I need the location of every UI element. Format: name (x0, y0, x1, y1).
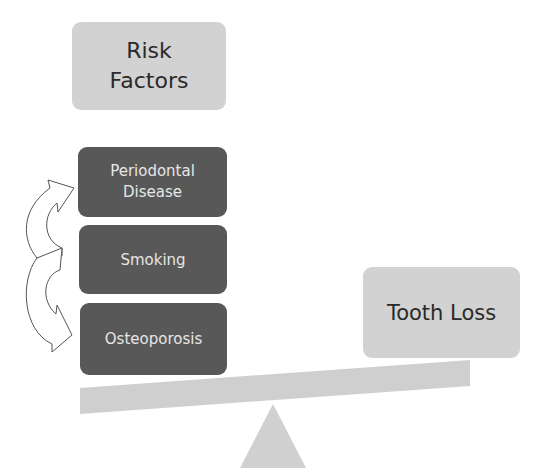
risk-factors-title-box: Risk Factors (72, 22, 226, 110)
curved-arrow-down-icon (26, 248, 72, 352)
osteoporosis-label: Osteoporosis (105, 330, 202, 348)
curved-arrow-up-icon (26, 180, 74, 258)
fulcrum-triangle (240, 404, 306, 468)
periodontal-line1: Periodontal (110, 161, 195, 182)
smoking-box: Smoking (79, 225, 227, 294)
periodontal-line2: Disease (110, 182, 195, 203)
periodontal-disease-box: Periodontal Disease (78, 147, 227, 217)
risk-factors-line1: Risk (110, 36, 189, 66)
smoking-label: Smoking (120, 251, 185, 269)
osteoporosis-box: Osteoporosis (80, 303, 227, 375)
tooth-loss-box: Tooth Loss (363, 267, 520, 358)
risk-factors-line2: Factors (110, 66, 189, 96)
tooth-loss-label: Tooth Loss (387, 301, 496, 325)
